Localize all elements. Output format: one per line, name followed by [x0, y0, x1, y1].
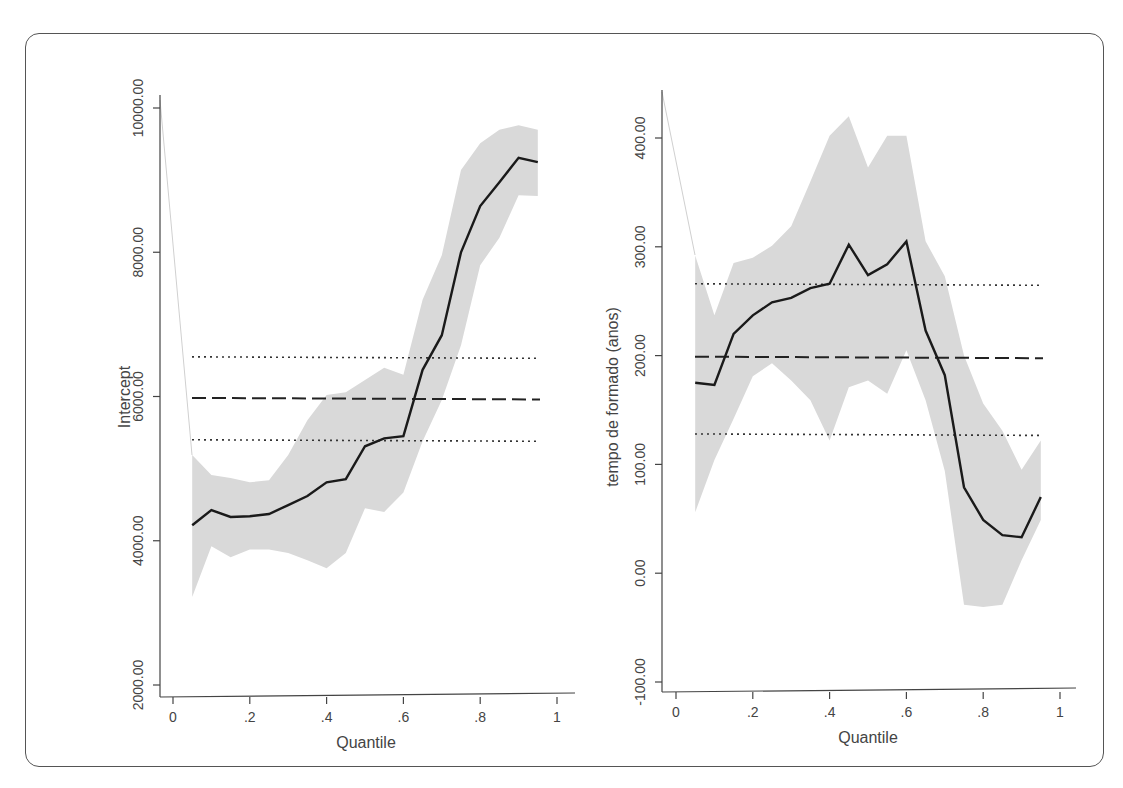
x-tick-label: .2: [747, 704, 759, 720]
x-tick-label: 0: [672, 704, 680, 720]
x-tick-label: 1: [553, 709, 561, 725]
right-band-artifact: [662, 92, 695, 255]
left-confidence-band: [192, 125, 538, 597]
x-tick-label: .2: [244, 709, 256, 725]
x-tick-label: .8: [474, 709, 486, 725]
left-panel: 2000.004000.006000.008000.0010000.00 0.2…: [116, 79, 575, 751]
y-tick-label: 8000.00: [130, 227, 146, 278]
y-tick-label: 10000.00: [130, 79, 146, 138]
right-panel: -100.000.00100.00200.00300.00400.00 0.2.…: [604, 90, 1076, 746]
left-ols-ci-upper-line: [192, 357, 540, 359]
right-y-axis-title: tempo de formado (anos): [604, 307, 621, 487]
right-x-axis-title: Quantile: [838, 729, 898, 746]
y-tick-label: 2000.00: [130, 659, 146, 710]
left-band-artifact: [160, 100, 192, 455]
right-x-axis: [662, 688, 1076, 692]
y-tick-label: 400.00: [632, 116, 648, 159]
y-tick-label: 0.00: [632, 559, 648, 586]
left-x-ticks: 0.2.4.6.81: [169, 697, 561, 725]
x-tick-label: .6: [398, 709, 410, 725]
right-confidence-band: [695, 116, 1041, 607]
y-tick-label: 100.00: [632, 443, 648, 486]
y-tick-label: 4000.00: [130, 515, 146, 566]
left-y-ticks: 2000.004000.006000.008000.0010000.00: [130, 79, 160, 711]
x-tick-label: .4: [321, 709, 333, 725]
right-y-ticks: -100.000.00100.00200.00300.00400.00: [632, 116, 662, 705]
charts-canvas: 2000.004000.006000.008000.0010000.00 0.2…: [0, 0, 1123, 788]
x-tick-label: 0: [169, 709, 177, 725]
x-tick-label: .4: [824, 704, 836, 720]
y-tick-label: 200.00: [632, 334, 648, 377]
x-tick-label: .8: [977, 704, 989, 720]
left-x-axis-title: Quantile: [336, 734, 396, 751]
left-y-axis-title: Intercept: [116, 365, 133, 428]
x-tick-label: .6: [901, 704, 913, 720]
y-tick-label: 300.00: [632, 225, 648, 268]
right-x-ticks: 0.2.4.6.81: [672, 692, 1064, 720]
x-tick-label: 1: [1056, 704, 1064, 720]
y-tick-label: -100.00: [632, 658, 648, 706]
left-x-axis: [160, 693, 575, 697]
